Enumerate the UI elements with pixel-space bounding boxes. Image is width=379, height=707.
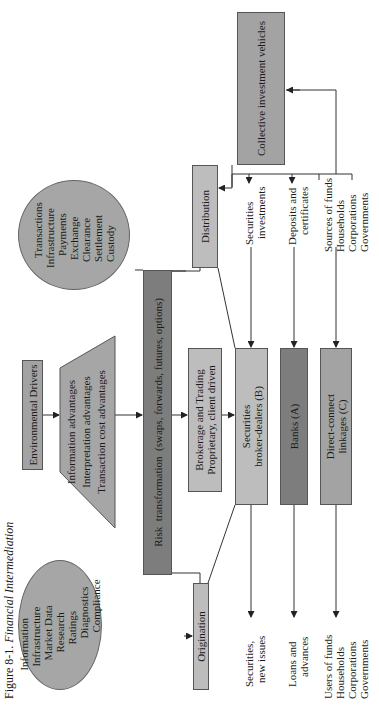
advantage-line: Information advantages: [64, 332, 79, 532]
direct-connect-line: linkages (C): [336, 399, 348, 453]
txn-line: Payments: [56, 213, 68, 256]
cvi-label: Collective investment vehicles: [255, 21, 267, 156]
label-line: Deposits and: [286, 179, 298, 245]
brokerage-line: Brokerage and Trading: [193, 369, 205, 470]
info-line: Diagnostics: [78, 587, 90, 639]
brokerage-trading-box: Brokerage and Trading Proprietary, clien…: [188, 348, 222, 492]
environmental-drivers-label: Environmental Drivers: [27, 364, 39, 465]
label-line: certificates: [298, 179, 310, 245]
banks-box: Banks (A): [280, 348, 308, 505]
origination-label: Origination: [195, 611, 207, 662]
label-line: advances: [298, 623, 310, 687]
distribution-box: Distribution: [192, 165, 218, 268]
txn-line: Settlement: [92, 215, 104, 262]
label-line: Sources of funds: [322, 172, 334, 252]
label-line: Corporations: [346, 619, 358, 699]
txn-line: Infrastructure: [44, 208, 56, 268]
label-line: Loans and: [286, 623, 298, 687]
txn-line: Transactions: [32, 202, 44, 258]
direct-connect-box: Direct-connect linkages (C): [320, 348, 352, 505]
securities-investments-label: Securities investments: [243, 181, 267, 245]
loans-advances-label: Loans and advances: [286, 623, 310, 687]
sources-of-funds-label: Sources of funds Households Corporations…: [322, 172, 370, 252]
broker-dealers-line: broker-dealers (B): [252, 386, 264, 467]
label-line: Households: [334, 172, 346, 252]
label-line: Governments: [358, 172, 370, 252]
environmental-drivers-box: Environmental Drivers: [22, 360, 43, 470]
info-line: Ratings: [66, 611, 78, 645]
risk-transformation-label: Risk transformation (swaps, forwards, fu…: [152, 298, 164, 547]
broker-dealers-line: Securities: [240, 405, 252, 448]
distribution-to-broker-dealers-line: [218, 268, 235, 348]
banks-label: Banks (A): [288, 404, 300, 450]
txn-line: Clearance: [80, 218, 92, 262]
info-line: Information: [18, 618, 30, 671]
info-line: Market Data: [42, 605, 54, 660]
label-line: Households: [334, 619, 346, 699]
brokerage-line: Proprietary, client driven: [205, 365, 217, 475]
arrow-sources-to-cvi: [286, 90, 336, 174]
label-line: investments: [255, 181, 267, 245]
advantage-line: Interpretation advantages: [79, 332, 94, 532]
label-line: Securities: [243, 181, 255, 245]
financial-intermediation-diagram: Figure 8-1. Financial Intermediation: [0, 0, 379, 707]
securities-broker-dealers-box: Securities broker-dealers (B): [235, 348, 268, 505]
label-line: Users of funds: [322, 619, 334, 699]
info-line: Compliance: [90, 579, 102, 632]
origination-to-broker-dealers-line: [208, 505, 235, 583]
transactions-circle: Transactions Infrastructure Payments Exc…: [18, 180, 130, 290]
collective-investment-vehicles-box: Collective investment vehicles: [237, 12, 285, 165]
securities-new-issues-label: Securities, new issues: [243, 623, 267, 687]
advantage-line: Transaction cost advantages: [94, 332, 109, 532]
label-line: Governments: [358, 619, 370, 699]
label-line: Securities,: [243, 623, 255, 687]
direct-connect-line: Direct-connect: [324, 394, 336, 459]
label-line: new issues: [255, 623, 267, 687]
origination-box: Origination: [193, 583, 209, 690]
info-line: Research: [54, 612, 66, 652]
txn-line: Custody: [104, 225, 116, 262]
distribution-label: Distribution: [199, 190, 211, 243]
txn-line: Exchange: [68, 217, 80, 260]
label-line: Corporations: [346, 172, 358, 252]
info-line: Infrastructure: [30, 607, 42, 667]
risk-transformation-bar: Risk transformation (swaps, forwards, fu…: [143, 270, 172, 575]
users-of-funds-label: Users of funds Households Corporations G…: [322, 619, 370, 699]
advantages-text: Information advantages Interpretation ad…: [64, 332, 109, 532]
deposits-certificates-label: Deposits and certificates: [286, 179, 310, 245]
information-circle: Information Infrastructure Market Data R…: [18, 560, 102, 690]
